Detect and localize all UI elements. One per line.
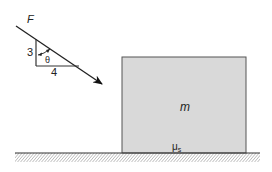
angle-arrowhead-icon (38, 53, 42, 57)
force-block-diagram: F 3 θ 4 m μs (0, 0, 272, 172)
vertical-leg-label: 3 (27, 46, 33, 58)
angle-label: θ (45, 55, 50, 65)
force-label: F (27, 13, 35, 25)
horizontal-leg-label: 4 (51, 66, 57, 78)
ground (15, 153, 260, 162)
mass-label: m (180, 100, 190, 114)
force-triangle: F 3 θ 4 (16, 13, 102, 84)
block: m μs (122, 57, 246, 153)
ground-hatching (15, 153, 260, 162)
